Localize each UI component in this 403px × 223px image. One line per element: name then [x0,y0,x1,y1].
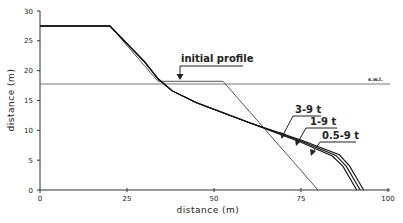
y-tick-25: 25 [24,37,33,45]
y-tick-labels: 0 5 10 15 20 25 30 [24,8,33,195]
label-0-5-9t: 0.5-9 t [322,130,359,141]
swl-label: s.w.l. [368,76,383,82]
initial-profile-line [40,26,318,190]
x-tick-25: 25 [123,195,132,203]
y-tick-15: 15 [24,97,33,105]
x-tick-50: 50 [210,195,219,203]
x-tick-labels: 0 25 50 75 100 [38,195,395,203]
x-tick-100: 100 [381,195,394,203]
arrow-icon [177,74,184,80]
y-tick-20: 20 [24,67,33,75]
beach-profile-chart: 0 5 10 15 20 25 30 0 25 50 75 100 distan… [0,0,403,223]
y-axis-label: distance (m) [6,69,16,132]
initial-profile-label: initial profile [181,53,254,64]
axes [37,11,390,193]
label-0-5-9t-annotation: 0.5-9 t [310,130,359,156]
x-tick-0: 0 [38,195,42,203]
label-1-9t: 1-9 t [310,116,337,127]
initial-profile-annotation: initial profile [177,53,254,80]
y-tick-0: 0 [29,187,33,195]
label-3-9t: 3-9 t [295,104,322,115]
x-tick-75: 75 [297,195,306,203]
x-axis-label: distance (m) [177,205,240,215]
chart-svg: 0 5 10 15 20 25 30 0 25 50 75 100 distan… [0,0,403,223]
y-tick-10: 10 [24,127,33,135]
y-tick-30: 30 [24,8,33,16]
arrow-icon [310,149,316,156]
y-tick-5: 5 [29,157,33,165]
